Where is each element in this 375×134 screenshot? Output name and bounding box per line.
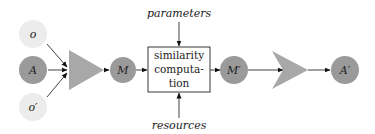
node-o-prime-label: o′ xyxy=(28,101,38,114)
node-m-prime-label: M′ xyxy=(226,64,241,77)
arrow-o-to-combine xyxy=(47,44,67,67)
combine-triangle-icon xyxy=(69,50,104,90)
box-line-1: similarity xyxy=(154,49,204,61)
node-o-prime: o′ xyxy=(19,93,47,121)
resources-label: resources xyxy=(152,119,207,132)
node-m-prime: M′ xyxy=(220,56,248,84)
node-a-prime: A′ xyxy=(331,56,359,84)
node-m-label: M xyxy=(116,64,129,77)
node-a: A xyxy=(19,56,47,84)
node-o-label: o xyxy=(30,28,37,41)
node-a-label: A xyxy=(28,64,37,77)
box-line-2: computa- xyxy=(154,63,204,75)
node-m: M xyxy=(110,57,136,83)
similarity-diagram: o A o′ M parameters similarity computa- … xyxy=(0,0,375,134)
parameters-label: parameters xyxy=(147,7,212,20)
similarity-computation-box: similarity computa- tion xyxy=(148,47,210,92)
box-line-3: tion xyxy=(169,77,190,89)
node-a-prime-label: A′ xyxy=(339,64,351,77)
arrow-o-prime-to-combine xyxy=(47,73,67,97)
node-o: o xyxy=(19,20,47,48)
